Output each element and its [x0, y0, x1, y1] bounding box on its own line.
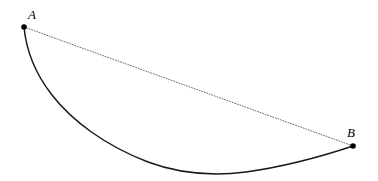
point-label-b: B [347, 126, 355, 139]
geometry-diagram-svg [0, 0, 378, 181]
point-marker-b [350, 143, 356, 149]
figure-background [0, 0, 378, 181]
figure-canvas: A B [0, 0, 378, 181]
point-marker-a [21, 24, 27, 30]
point-label-a: A [28, 8, 36, 21]
